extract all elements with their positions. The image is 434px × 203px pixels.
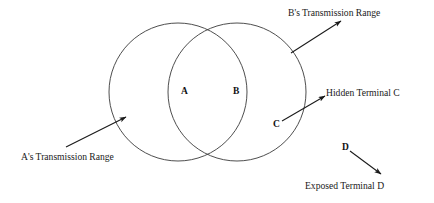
arrow-hidden-terminal-c	[282, 96, 325, 121]
node-label-c: C	[273, 120, 280, 130]
arrow-b-transmission-range	[291, 21, 341, 53]
arrow-exposed-terminal-d	[350, 151, 381, 174]
circle-a-transmission-range	[109, 23, 247, 161]
node-label-a: A	[181, 87, 188, 97]
arrow-a-transmission-range	[66, 117, 126, 147]
hidden-exposed-terminal-diagram: A B C D B's Transmission Range A's Trans…	[0, 0, 434, 203]
caption-exposed-terminal-d: Exposed Terminal D	[305, 181, 384, 191]
node-label-d: D	[342, 143, 349, 153]
caption-b-transmission-range: B's Transmission Range	[288, 8, 380, 18]
caption-a-transmission-range: A's Transmission Range	[21, 152, 114, 162]
caption-hidden-terminal-c: Hidden Terminal C	[326, 88, 400, 98]
node-label-b: B	[233, 87, 239, 97]
diagram-canvas	[0, 0, 434, 203]
